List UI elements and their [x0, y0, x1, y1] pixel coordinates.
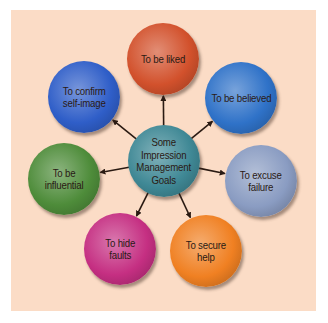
arrow-to-excuse	[197, 168, 224, 174]
goal-label: To be influential	[45, 167, 84, 192]
goal-node-to-be-liked: To be liked	[127, 23, 199, 95]
arrow-to-secure	[178, 192, 190, 218]
goal-label: To be liked	[141, 53, 185, 66]
goal-node-to-hide-faults: To hide faults	[84, 213, 156, 285]
arrow-to-believed	[190, 121, 212, 139]
arrow-to-influential	[100, 167, 130, 172]
center-node-impression-management-goals: Some Impression Management Goals	[128, 125, 200, 197]
goal-label: To hide faults	[105, 237, 135, 262]
arrow-to-hide	[137, 191, 149, 215]
arrow-to-confirm	[113, 120, 138, 140]
goal-node-to-be-believed: To be believed	[205, 62, 277, 134]
goal-label: To confirm self-image	[63, 85, 106, 110]
goal-node-to-confirm-self-image: To confirm self-image	[48, 61, 120, 133]
center-node-label: Some Impression Management Goals	[137, 136, 192, 186]
goal-node-to-be-influential: To be influential	[28, 143, 100, 215]
goal-label: To excuse failure	[240, 169, 282, 194]
goal-node-to-excuse-failure: To excuse failure	[225, 145, 297, 217]
goal-node-to-secure-help: To secure help	[170, 215, 242, 287]
goal-label: To be believed	[211, 92, 271, 105]
goal-label: To secure help	[186, 239, 226, 264]
